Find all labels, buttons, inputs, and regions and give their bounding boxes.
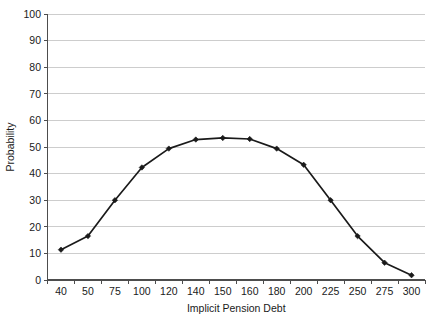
y-tick-label-80: 80 bbox=[29, 61, 41, 73]
x-tick-label-100: 100 bbox=[133, 285, 151, 297]
x-tick-label-200: 200 bbox=[295, 285, 313, 297]
x-tick-label-140: 140 bbox=[187, 285, 205, 297]
x-tick-label-180: 180 bbox=[268, 285, 286, 297]
y-tick-label-0: 0 bbox=[35, 274, 41, 286]
probability-line-chart: 0102030405060708090100 40507510012014015… bbox=[0, 0, 435, 323]
x-tick-label-300: 300 bbox=[403, 285, 421, 297]
x-tick-label-275: 275 bbox=[376, 285, 394, 297]
x-tick-label-150: 150 bbox=[214, 285, 232, 297]
chart-background bbox=[0, 0, 435, 323]
y-tick-label-50: 50 bbox=[29, 141, 41, 153]
x-tick-label-250: 250 bbox=[349, 285, 367, 297]
y-tick-label-40: 40 bbox=[29, 167, 41, 179]
x-tick-label-225: 225 bbox=[322, 285, 340, 297]
y-tick-label-90: 90 bbox=[29, 34, 41, 46]
y-tick-label-20: 20 bbox=[29, 221, 41, 233]
x-tick-label-50: 50 bbox=[82, 285, 94, 297]
y-tick-label-70: 70 bbox=[29, 88, 41, 100]
y-tick-label-10: 10 bbox=[29, 247, 41, 259]
x-tick-label-40: 40 bbox=[55, 285, 67, 297]
y-tick-label-60: 60 bbox=[29, 114, 41, 126]
x-tick-label-75: 75 bbox=[109, 285, 121, 297]
y-tick-label-100: 100 bbox=[23, 8, 41, 20]
y-tick-label-30: 30 bbox=[29, 194, 41, 206]
y-axis-title: Probability bbox=[4, 122, 16, 172]
x-axis-title: Implicit Pension Debt bbox=[187, 302, 286, 314]
x-tick-label-120: 120 bbox=[160, 285, 178, 297]
chart-figure: 0102030405060708090100 40507510012014015… bbox=[0, 0, 435, 323]
x-tick-label-160: 160 bbox=[241, 285, 259, 297]
